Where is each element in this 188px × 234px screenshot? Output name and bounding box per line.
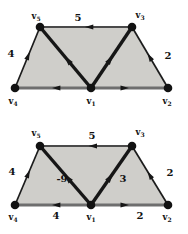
- weighted-graph-bottom: 54242-93v5v3v4v1v2: [0, 117, 188, 234]
- vertex-v3-label: v3: [134, 10, 144, 21]
- weighted-graph-top: 542v5v3v4v1v2: [0, 0, 188, 117]
- vertex-v2-dot: [164, 84, 173, 93]
- edge-weight-v1-v3: 3: [120, 173, 127, 184]
- vertex-v1-label: v1: [85, 96, 95, 107]
- vertex-v5-dot: [36, 23, 45, 32]
- vertex-v1-dot: [87, 84, 96, 93]
- vertex-v1-label: v1: [85, 212, 95, 223]
- vertex-v3-label: v3: [134, 127, 144, 138]
- edge-weight-v3-v5: 5: [89, 130, 96, 141]
- two-weighted-graph-figures: 542v5v3v4v1v2 54242-93v5v3v4v1v2: [0, 0, 188, 234]
- vertex-v5-label: v5: [30, 128, 40, 139]
- edge-weight-v2-v3: 2: [167, 167, 174, 178]
- vertex-v2-dot: [164, 201, 173, 210]
- edge-weight-v1-v5: -9: [56, 173, 67, 184]
- vertex-v4-label: v4: [7, 96, 17, 107]
- vertex-v5-dot: [36, 142, 45, 151]
- edge-weight-v2-v3: 2: [165, 50, 172, 61]
- graph-shaded-region: [15, 27, 168, 88]
- edge-weight-v4-v5: 4: [8, 48, 15, 59]
- vertex-v4-dot: [11, 201, 20, 210]
- vertex-v5-label: v5: [30, 11, 40, 22]
- vertex-v4-label: v4: [7, 212, 17, 223]
- arrowhead-icon: [24, 52, 30, 61]
- edge-weight-v4-v5: 4: [9, 166, 16, 177]
- vertex-v1-dot: [87, 201, 96, 210]
- edge-weight-v3-v5: 5: [75, 12, 82, 23]
- vertex-v2-label: v2: [161, 96, 171, 107]
- edge-weight-v1-v2: 2: [137, 210, 144, 221]
- vertex-v3-dot: [128, 23, 137, 32]
- vertex-v2-label: v2: [161, 212, 171, 223]
- vertex-v3-dot: [128, 142, 137, 151]
- vertex-v4-dot: [11, 84, 20, 93]
- graph-shaded-region: [15, 146, 168, 205]
- edge-weight-v1-v4: 4: [53, 210, 60, 221]
